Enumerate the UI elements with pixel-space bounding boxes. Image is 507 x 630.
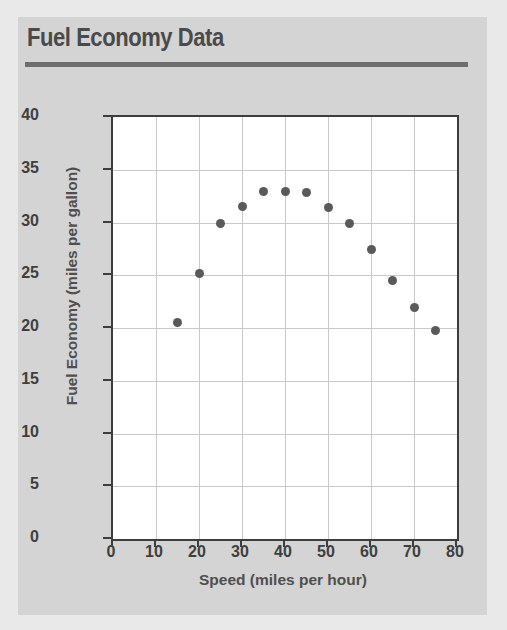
grid-line-horizontal (113, 275, 457, 276)
page-title: Fuel Economy Data (27, 23, 224, 52)
chart-card: Fuel Economy Data Fuel Economy (miles pe… (18, 17, 487, 615)
y-tick-label: 40 (18, 106, 39, 124)
y-tick-label: 30 (18, 212, 39, 230)
grid-line-horizontal (113, 223, 457, 224)
grid-line-horizontal (113, 328, 457, 329)
y-tick-label: 10 (18, 423, 39, 441)
data-point (410, 303, 419, 312)
grid-line-horizontal (113, 434, 457, 435)
y-tick-mark (103, 221, 111, 223)
y-tick-mark (103, 484, 111, 486)
data-point (431, 326, 440, 335)
chart-container: Fuel Economy (miles per gallon) Speed (m… (18, 79, 487, 615)
data-point (173, 318, 182, 327)
grid-line-horizontal (113, 170, 457, 171)
grid-line-horizontal (113, 486, 457, 487)
y-tick-label: 0 (18, 528, 39, 546)
plot-area (111, 115, 459, 541)
data-point (195, 269, 204, 278)
y-tick-mark (103, 115, 111, 117)
y-tick-mark (103, 537, 111, 539)
y-axis-title: Fuel Economy (miles per gallon) (63, 86, 81, 486)
y-tick-label: 35 (18, 159, 39, 177)
y-tick-mark (103, 168, 111, 170)
title-divider (25, 62, 468, 67)
data-point (216, 219, 225, 228)
data-point (281, 187, 290, 196)
y-tick-label: 20 (18, 317, 39, 335)
y-tick-mark (103, 273, 111, 275)
y-tick-mark (103, 379, 111, 381)
data-point (324, 203, 333, 212)
y-tick-label: 5 (18, 475, 39, 493)
y-tick-mark (103, 432, 111, 434)
data-point (259, 187, 268, 196)
y-tick-mark (103, 326, 111, 328)
data-point (388, 276, 397, 285)
y-tick-label: 15 (18, 370, 39, 388)
data-point (367, 245, 376, 254)
grid-line-horizontal (113, 381, 457, 382)
x-axis-title: Speed (miles per hour) (111, 571, 455, 589)
data-point (345, 219, 354, 228)
data-point (238, 202, 247, 211)
y-tick-label: 25 (18, 264, 39, 282)
data-point (302, 188, 311, 197)
